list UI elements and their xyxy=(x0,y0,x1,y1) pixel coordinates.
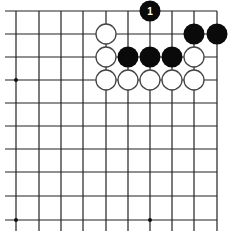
black-stone xyxy=(184,24,205,45)
black-stone xyxy=(207,24,228,45)
star-point xyxy=(14,78,18,82)
white-stone xyxy=(96,70,116,90)
star-point xyxy=(14,218,18,222)
white-stone xyxy=(140,70,160,90)
black-stone xyxy=(118,47,139,68)
black-stone xyxy=(140,47,161,68)
black-stone xyxy=(162,47,183,68)
grid-lines xyxy=(5,11,217,231)
white-stone xyxy=(184,70,204,90)
white-stone xyxy=(184,47,204,67)
move-number-label: 1 xyxy=(147,6,153,17)
white-stone xyxy=(96,47,116,67)
white-stone xyxy=(96,24,116,44)
black-stone: 1 xyxy=(140,1,161,22)
go-board: 1 xyxy=(0,0,228,236)
white-stone xyxy=(162,70,182,90)
star-point xyxy=(148,218,152,222)
stones: 1 xyxy=(96,1,228,91)
white-stone xyxy=(118,70,138,90)
